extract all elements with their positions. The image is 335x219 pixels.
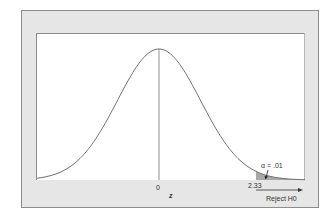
normal-curve-chart — [0, 0, 335, 219]
arrow-right-icon — [298, 188, 303, 192]
x-axis-label: z — [169, 192, 173, 199]
normal-curve — [37, 49, 305, 180]
alpha-label: α = .01 — [261, 162, 283, 169]
rejection-region — [256, 171, 305, 180]
critical-value-label: 2.33 — [248, 182, 262, 189]
tick-label-zero: 0 — [156, 184, 160, 191]
reject-h0-label: Reject H0 — [266, 195, 297, 202]
